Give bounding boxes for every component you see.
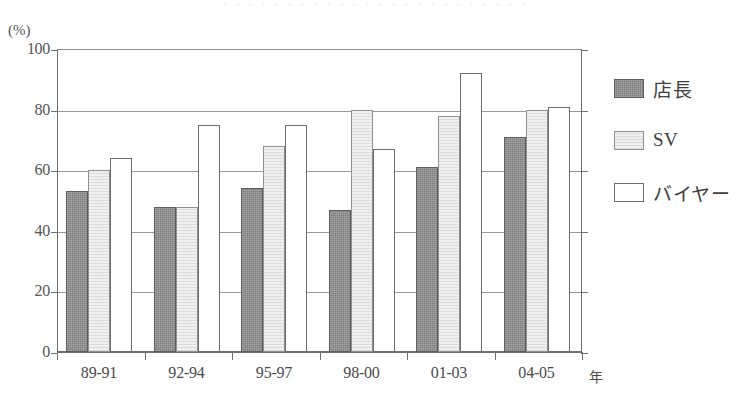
y-axis-tick-label: 20 (8, 282, 50, 300)
y-axis-unit-label: (%) (8, 22, 31, 39)
legend-swatch-icon (614, 79, 644, 98)
x-axis-unit-label: 年 (589, 366, 603, 386)
y-axis-tick-label: 80 (8, 101, 50, 119)
x-axis-tick (232, 352, 233, 360)
gridline (58, 232, 581, 233)
y-axis-tick-right (581, 171, 588, 172)
y-axis-tick-left (51, 111, 58, 112)
x-axis-tick-label: 98-00 (343, 364, 379, 382)
gridline (58, 292, 581, 293)
gridline (58, 111, 581, 112)
x-axis-tick (320, 352, 321, 360)
x-axis-tick-label: 01-03 (431, 364, 467, 382)
y-axis-tick-left (51, 292, 58, 293)
legend-swatch-icon (614, 131, 644, 150)
y-axis-tick-label: 0 (8, 343, 50, 361)
plot-area (57, 49, 582, 352)
legend-item: SV (614, 120, 749, 160)
bar-chart-figure: ・・・・・・・・・・・・・・・・・・・・・・・・ (%) 02040608010… (0, 0, 749, 407)
x-axis-tick-label: 04-05 (518, 364, 554, 382)
y-axis-tick-left (51, 50, 58, 51)
y-axis-tick-label: 100 (8, 40, 50, 58)
legend-swatch-icon (614, 183, 644, 202)
legend-item: バイヤー (614, 172, 749, 212)
faint-title-strip: ・・・・・・・・・・・・・・・・・・・・・・・・ (150, 0, 600, 6)
x-axis-tick (145, 352, 146, 360)
gridline (58, 171, 581, 172)
y-axis-tick-label: 40 (8, 222, 50, 240)
x-axis-tick-label: 95-97 (256, 364, 292, 382)
legend-item-label: バイヤー (653, 179, 730, 206)
chart-legend: 店長SVバイヤー (614, 68, 749, 224)
y-axis-tick-label: 60 (8, 161, 50, 179)
x-axis-tick-label: 92-94 (168, 364, 204, 382)
legend-item-label: SV (653, 129, 678, 151)
y-axis-tick-right (581, 111, 588, 112)
legend-item-label: 店長 (653, 75, 692, 102)
legend-item: 店長 (614, 68, 749, 108)
x-axis-tick (407, 352, 408, 360)
y-axis-tick-labels: 020406080100 (0, 49, 50, 352)
x-axis-tick-label: 89-91 (81, 364, 117, 382)
y-axis-tick-right (581, 232, 588, 233)
y-axis-tick-left (51, 171, 58, 172)
y-axis-tick-right (581, 292, 588, 293)
y-axis-tick-left (51, 232, 58, 233)
x-axis-tick (495, 352, 496, 360)
x-axis-tick (582, 352, 583, 360)
y-axis-tick-right (581, 50, 588, 51)
x-axis-tick (57, 352, 58, 360)
